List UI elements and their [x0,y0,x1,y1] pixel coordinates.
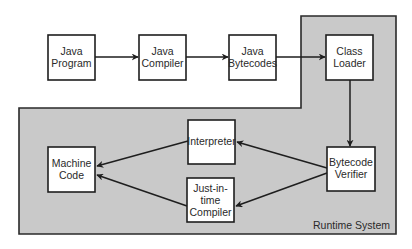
svg-text:Java: Java [60,45,82,57]
svg-text:Interpreter: Interpreter [187,135,236,147]
node-bytecode-verifier: Bytecode Verifier [327,147,375,191]
svg-text:Verifier: Verifier [335,168,368,180]
svg-text:Code: Code [59,169,84,181]
svg-text:Java: Java [241,45,263,57]
svg-text:Compiler: Compiler [189,206,232,218]
svg-text:Java: Java [151,45,173,57]
svg-text:Machine: Machine [52,157,92,169]
svg-text:Bytecodes: Bytecodes [228,57,277,69]
node-java-program: Java Program [48,35,95,80]
node-jit-compiler: Just-in- time Compiler [187,178,234,222]
svg-text:time: time [201,194,221,206]
node-machine-code: Machine Code [48,147,95,192]
node-interpreter: Interpreter [187,120,236,164]
node-java-bytecodes: Java Bytecodes [228,35,277,80]
svg-text:Just-in-: Just-in- [193,182,228,194]
svg-text:Bytecode: Bytecode [329,156,373,168]
svg-text:Compiler: Compiler [141,57,184,69]
node-class-loader: Class Loader [326,35,373,80]
java-runtime-diagram: Runtime System Java Program Java Compile… [0,0,412,249]
node-java-compiler: Java Compiler [139,35,186,80]
svg-text:Loader: Loader [333,57,366,69]
svg-text:Program: Program [51,57,92,69]
svg-text:Class: Class [336,45,362,57]
runtime-system-label: Runtime System [313,219,390,231]
